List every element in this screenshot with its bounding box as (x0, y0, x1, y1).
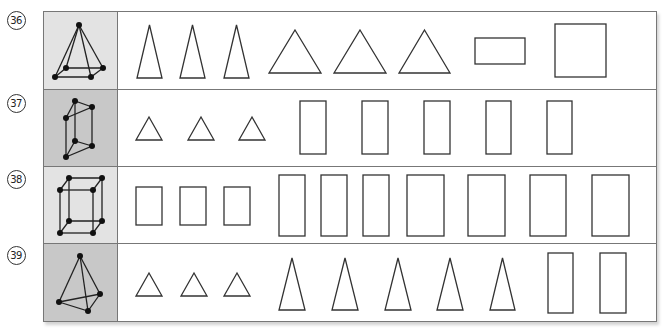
rectangle-face-icon (321, 175, 347, 236)
triangle-face-icon (224, 25, 249, 78)
triangle-face-icon (279, 258, 305, 310)
rectangle-face-icon (136, 187, 162, 225)
rectangle-face-icon (547, 101, 572, 154)
rectangle-face-icon (279, 175, 305, 236)
faces-group (136, 24, 629, 313)
rectangle-face-icon (300, 101, 326, 154)
rectangular-prism-icon (57, 175, 105, 236)
triangular-pyramid-icon (56, 253, 103, 314)
triangle-face-icon (490, 258, 515, 310)
triangle-face-icon (136, 273, 162, 296)
triangle-face-icon (188, 117, 214, 140)
triangle-face-icon (181, 273, 207, 296)
triangle-face-icon (239, 117, 265, 140)
triangle-face-icon (399, 30, 450, 73)
rectangle-face-icon (555, 24, 606, 77)
rectangle-face-icon (407, 175, 444, 236)
rectangle-face-icon (468, 175, 505, 236)
triangular-prism-icon (63, 98, 95, 160)
triangle-face-icon (269, 30, 321, 73)
drawing-layer (0, 0, 668, 333)
square-pyramid-icon (52, 22, 106, 80)
triangle-face-icon (136, 117, 162, 140)
triangle-face-icon (224, 273, 250, 296)
triangle-face-icon (437, 258, 463, 310)
rectangle-face-icon (224, 187, 250, 225)
rectangle-face-icon (424, 101, 450, 154)
rectangle-face-icon (362, 101, 388, 154)
rectangle-face-icon (530, 175, 566, 236)
triangle-face-icon (180, 25, 205, 78)
rectangle-face-icon (363, 175, 389, 236)
triangle-face-icon (334, 30, 386, 73)
rectangle-face-icon (592, 175, 629, 236)
rectangle-face-icon (548, 253, 573, 313)
rectangle-face-icon (475, 38, 525, 64)
rectangle-face-icon (486, 101, 511, 154)
rectangle-face-icon (180, 187, 206, 225)
triangle-face-icon (385, 258, 411, 310)
triangle-face-icon (332, 258, 358, 310)
triangle-face-icon (137, 25, 162, 78)
rectangle-face-icon (600, 253, 626, 313)
